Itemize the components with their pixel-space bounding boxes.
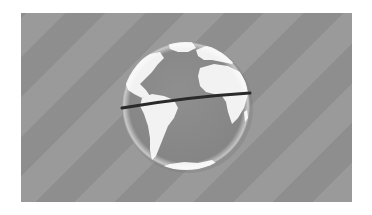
globe-illustration (0, 0, 372, 215)
